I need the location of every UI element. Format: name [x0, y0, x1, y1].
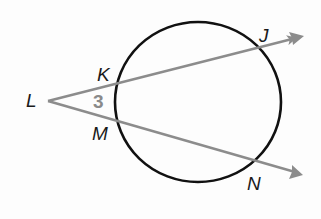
- label-M: M: [92, 123, 108, 144]
- angle-3-label: 3: [93, 91, 104, 112]
- label-J: J: [258, 25, 269, 46]
- ray-LN: [48, 101, 295, 172]
- label-N: N: [247, 173, 261, 194]
- label-L: L: [26, 90, 37, 111]
- circle: [115, 22, 281, 182]
- diagram-canvas: L K J M N 3: [0, 0, 321, 219]
- label-K: K: [97, 64, 111, 85]
- ray-LJ: [48, 38, 296, 101]
- secant-diagram: L K J M N 3: [0, 0, 321, 219]
